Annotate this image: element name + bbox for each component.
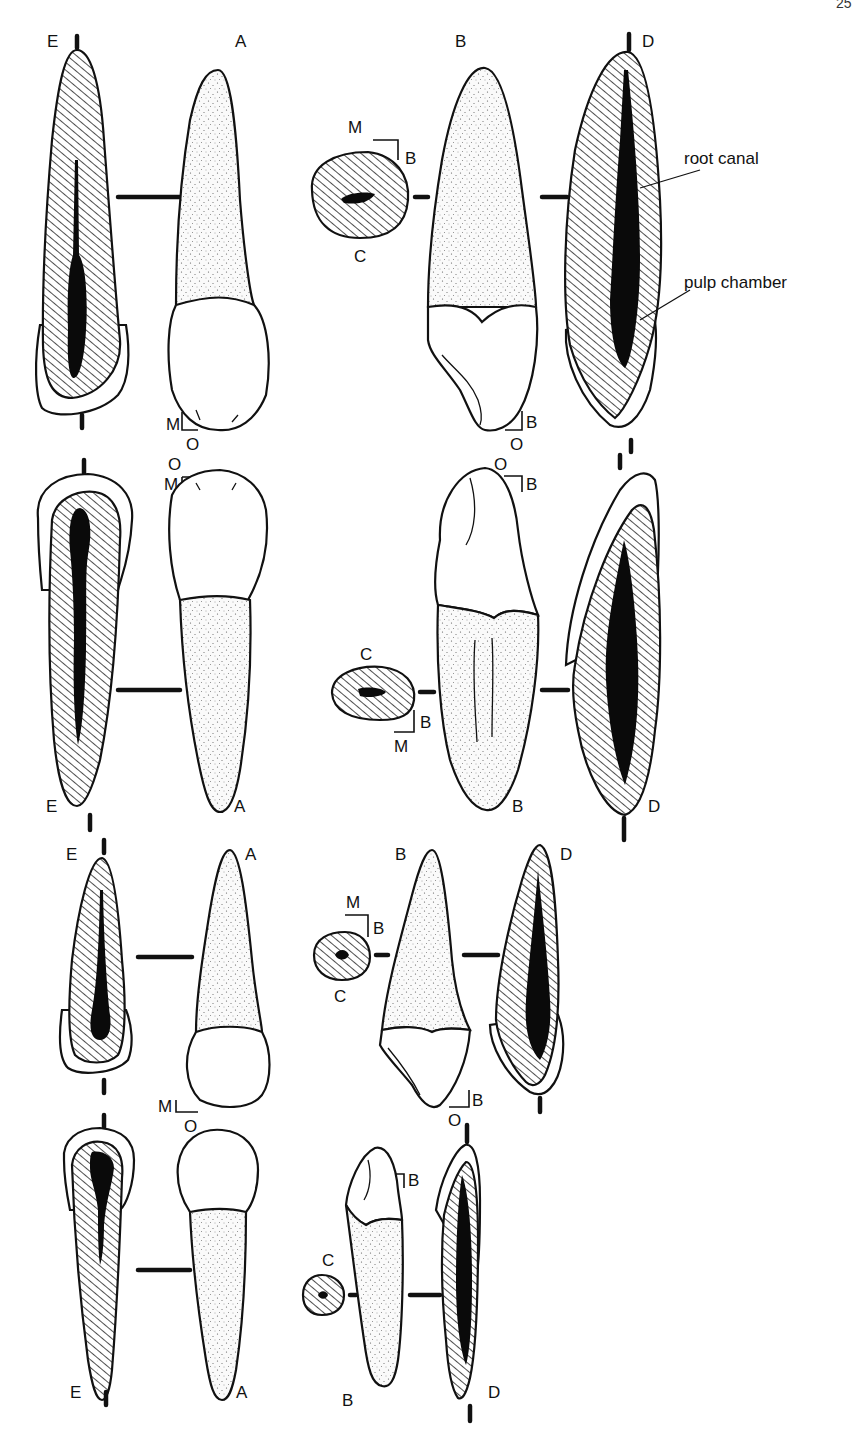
axis-label-m: M	[166, 415, 180, 434]
c-cross-section: M B C	[314, 893, 388, 1006]
c-cross-section: C	[303, 1251, 356, 1315]
axis-label-m: M	[394, 737, 408, 756]
axis-label-m: M	[348, 118, 362, 137]
b-view-section: B O B	[435, 455, 538, 816]
label-a: A	[236, 1383, 248, 1402]
axis-label-o: O	[510, 435, 523, 454]
label-e: E	[66, 845, 77, 864]
row-1: E A M O M B C B	[36, 32, 787, 454]
label-c: C	[360, 645, 372, 664]
axis-label-m: M	[346, 893, 360, 912]
a-view-section: A M O	[166, 32, 269, 454]
a-view-section: A M O	[158, 845, 270, 1136]
label-d: D	[488, 1383, 500, 1402]
e-view-section: E	[60, 840, 132, 1093]
c-cross-section: C B M	[332, 645, 434, 756]
axis-label-m: M	[158, 1097, 172, 1116]
axis-label-b: B	[405, 149, 416, 168]
c-cross-section: M B C	[312, 118, 428, 266]
d-view-section: D	[490, 845, 572, 1112]
label-b: B	[342, 1391, 353, 1410]
d-view-section: D	[436, 1125, 500, 1421]
label-c: C	[334, 987, 346, 1006]
page-number: 25	[836, 0, 852, 11]
label-d: D	[642, 32, 654, 51]
e-view-section: E	[64, 1115, 134, 1405]
axis-label-b: B	[408, 1171, 419, 1190]
axis-label-b: B	[526, 413, 537, 432]
axis-label-o: O	[168, 455, 181, 474]
axis-label-b: B	[420, 713, 431, 732]
b-view-section: B B O	[380, 845, 483, 1130]
axis-label-o: O	[448, 1111, 461, 1130]
e-view-section: E	[38, 460, 132, 830]
root-canal-callout: root canal	[684, 149, 759, 168]
d-view-section: D	[566, 455, 660, 840]
e-view-section: E	[36, 32, 128, 428]
tooth-anatomy-figure: 25 E A M O M B C	[0, 0, 853, 1454]
label-a: A	[245, 845, 257, 864]
a-view-section: A	[178, 1130, 258, 1402]
axis-label-b: B	[526, 475, 537, 494]
label-a: A	[234, 797, 246, 816]
label-b: B	[512, 797, 523, 816]
b-view-section: O B B	[342, 1148, 419, 1410]
label-a: A	[235, 32, 247, 51]
label-d: D	[560, 845, 572, 864]
label-e: E	[47, 32, 58, 51]
label-d: D	[648, 797, 660, 816]
pulp-chamber-callout: pulp chamber	[684, 273, 787, 292]
label-b: B	[395, 845, 406, 864]
b-view-section: B B O	[428, 32, 537, 454]
label-c: C	[322, 1251, 334, 1270]
row-4: E A C O B B D	[64, 1115, 500, 1421]
axis-label-o: O	[184, 1117, 197, 1136]
d-view-section: D root canal pulp chamber	[565, 32, 787, 452]
label-e: E	[46, 797, 57, 816]
axis-label-o: O	[494, 455, 507, 474]
label-c: C	[354, 247, 366, 266]
row-2: E O M A C B M B O	[38, 455, 661, 840]
label-e: E	[70, 1383, 81, 1402]
a-view-section: O M A	[164, 455, 267, 816]
axis-label-b: B	[472, 1091, 483, 1110]
label-b: B	[455, 32, 466, 51]
axis-label-o: O	[186, 435, 199, 454]
row-3: E A M O M B C B	[60, 840, 572, 1136]
axis-label-b: B	[373, 919, 384, 938]
